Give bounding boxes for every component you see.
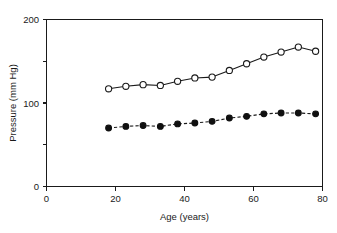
y-axis-title: Pressure (mm Hg)	[7, 64, 18, 142]
data-point	[175, 78, 181, 84]
data-point	[140, 82, 146, 88]
data-point	[261, 54, 267, 60]
chart-canvas: 200 100 0 0 20 40 60 80 Age (years) Pres…	[0, 0, 337, 233]
data-point	[295, 110, 301, 116]
x-tick-label-0: 0	[44, 193, 49, 204]
x-tick-label-40: 40	[179, 193, 190, 204]
data-point	[140, 123, 146, 129]
data-point	[192, 75, 198, 81]
x-axis-title: Age (years)	[160, 211, 209, 222]
data-point	[175, 121, 181, 127]
data-point	[295, 44, 301, 50]
y-tick-label-100: 100	[23, 98, 39, 109]
data-point	[157, 82, 163, 88]
data-point	[123, 123, 129, 129]
data-point	[192, 120, 198, 126]
data-point	[244, 61, 250, 67]
chart-background	[0, 0, 337, 233]
data-point	[157, 123, 163, 129]
data-point	[106, 125, 112, 131]
data-point	[261, 111, 267, 117]
data-point	[226, 115, 232, 121]
data-point	[278, 110, 284, 116]
data-point	[209, 118, 215, 124]
y-tick-label-200: 200	[23, 14, 39, 25]
x-tick-label-80: 80	[317, 193, 328, 204]
data-point	[209, 74, 215, 80]
data-point	[244, 113, 250, 119]
data-point	[313, 48, 319, 54]
x-tick-label-20: 20	[110, 193, 121, 204]
data-point	[313, 111, 319, 117]
data-point	[106, 86, 112, 92]
x-tick-label-60: 60	[248, 193, 259, 204]
data-point	[278, 49, 284, 55]
data-point	[123, 83, 129, 89]
y-tick-label-0: 0	[34, 181, 39, 192]
data-point	[226, 67, 232, 73]
pressure-vs-age-chart: 200 100 0 0 20 40 60 80 Age (years) Pres…	[0, 0, 337, 233]
